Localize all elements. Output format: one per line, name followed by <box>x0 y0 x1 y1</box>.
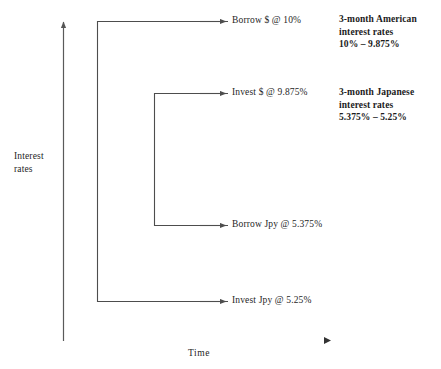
inner-bracket-path <box>155 94 229 226</box>
diagram-canvas: Borrow $ @ 10% Invest $ @ 9.875% Borrow … <box>0 0 441 369</box>
annotation-japanese-line1: 3-month Japanese <box>339 86 414 99</box>
node-label-invest-jpy: Invest Jpy @ 5.25% <box>232 294 312 306</box>
y-axis-label-line2: rates <box>14 163 44 176</box>
annotation-american-line2: interest rates <box>339 26 417 39</box>
annotation-japanese: 3-month Japanese interest rates 5.375% –… <box>339 86 414 124</box>
node-label-borrow-usd: Borrow $ @ 10% <box>232 14 301 26</box>
annotation-american-line1: 3-month American <box>339 13 417 26</box>
annotation-japanese-line3: 5.375% – 5.25% <box>339 111 414 124</box>
x-axis-arrowhead <box>324 337 331 344</box>
x-axis <box>64 337 332 344</box>
node-label-invest-usd: Invest $ @ 9.875% <box>232 86 308 98</box>
annotation-japanese-line2: interest rates <box>339 99 414 112</box>
annotation-american-line3: 10% – 9.875% <box>339 38 417 51</box>
node-label-borrow-jpy: Borrow Jpy @ 5.375% <box>232 218 322 230</box>
y-axis-label: Interest rates <box>14 150 44 175</box>
outer-bracket-path <box>98 22 229 302</box>
diagram-lines <box>0 0 441 369</box>
y-axis-label-line1: Interest <box>14 150 44 163</box>
annotation-american: 3-month American interest rates 10% – 9.… <box>339 13 417 51</box>
x-axis-label: Time <box>188 348 210 358</box>
